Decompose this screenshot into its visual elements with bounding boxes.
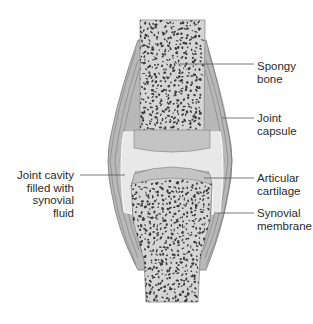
bone-pore — [143, 299, 145, 301]
bone-pore — [132, 270, 134, 273]
bone-pore — [207, 301, 208, 303]
upper-bone — [137, 19, 205, 142]
bone-pore — [139, 274, 141, 278]
label-joint-cavity: Joint cavity filled with synovial fluid — [17, 169, 74, 219]
bone-pore — [199, 288, 202, 290]
bone-pore — [207, 282, 209, 285]
lower-bone — [129, 170, 213, 304]
bone-pore — [192, 258, 195, 260]
bone-pore — [133, 286, 136, 289]
label-synovial-membrane: Synovial membrane — [257, 207, 312, 232]
label-line: synovial — [17, 194, 74, 207]
label-line: Articular — [257, 172, 300, 185]
bone-pore — [203, 280, 206, 284]
bone-pore — [190, 245, 191, 248]
bone-pore — [203, 295, 205, 297]
bone-pore — [152, 84, 154, 87]
bone-pore — [191, 283, 193, 285]
bone-pore — [206, 273, 210, 277]
label-line: cartilage — [257, 185, 300, 198]
bone-pore — [200, 297, 202, 300]
bone-pore — [161, 297, 163, 299]
bone-pore — [141, 290, 144, 293]
bone-pore — [202, 272, 205, 274]
bone-pore — [132, 264, 135, 266]
synovial-joint-diagram — [0, 0, 313, 324]
bone-pore — [202, 271, 204, 273]
bone-pore — [132, 292, 135, 294]
bone-pore — [133, 295, 136, 298]
bone-pore — [135, 291, 138, 294]
bone-pore — [137, 278, 141, 282]
label-line: Spongy — [257, 60, 296, 73]
bone-pore — [137, 283, 139, 285]
bone-pore — [140, 271, 142, 274]
bone-pore — [204, 271, 206, 273]
bone-pore — [204, 298, 206, 302]
bone-pore — [199, 298, 201, 301]
bone-pore — [200, 271, 202, 274]
label-spongy-bone: Spongy bone — [257, 60, 296, 85]
bone-pore — [207, 295, 210, 299]
upper-articular-cartilage — [134, 130, 210, 152]
bone-pore — [203, 289, 206, 292]
bone-pore — [131, 278, 134, 281]
bone-pore — [192, 290, 193, 292]
bone-pore — [199, 68, 201, 71]
bone-pore — [202, 279, 205, 281]
bone-pore — [191, 262, 194, 265]
label-line: fluid — [17, 207, 74, 220]
bone-pore — [136, 272, 138, 274]
bone-pore — [166, 189, 168, 193]
bone-pore — [208, 279, 211, 282]
bone-pore — [163, 69, 165, 71]
bone-pore — [137, 299, 139, 302]
bone-pore — [135, 274, 137, 276]
bone-pore — [131, 300, 134, 303]
bone-pore — [208, 270, 211, 273]
label-line: Joint cavity — [17, 169, 74, 182]
bone-pore — [140, 286, 143, 290]
bone-pore — [186, 186, 188, 189]
bone-pore — [137, 287, 140, 290]
label-line: Synovial — [257, 207, 312, 220]
bone-pore — [173, 186, 175, 187]
label-line: membrane — [257, 220, 312, 233]
bone-pore — [200, 290, 203, 293]
bone-pore — [132, 283, 135, 286]
bone-pore — [140, 283, 142, 286]
label-joint-capsule: Joint capsule — [257, 112, 297, 137]
label-line: capsule — [257, 125, 297, 138]
label-line: Joint — [257, 112, 297, 125]
label-articular-cartilage: Articular cartilage — [257, 172, 300, 197]
bone-pore — [203, 282, 207, 285]
bone-pore — [207, 283, 211, 285]
bone-pore — [131, 273, 135, 276]
bone-pore — [210, 263, 213, 265]
bone-pore — [135, 294, 138, 298]
label-line: bone — [257, 73, 296, 86]
bone-pore — [202, 287, 206, 291]
bone-pore — [182, 106, 186, 108]
bone-pore — [182, 291, 185, 294]
label-line: filled with — [17, 182, 74, 195]
bone-pore — [140, 295, 144, 299]
bone-pore — [209, 292, 213, 295]
